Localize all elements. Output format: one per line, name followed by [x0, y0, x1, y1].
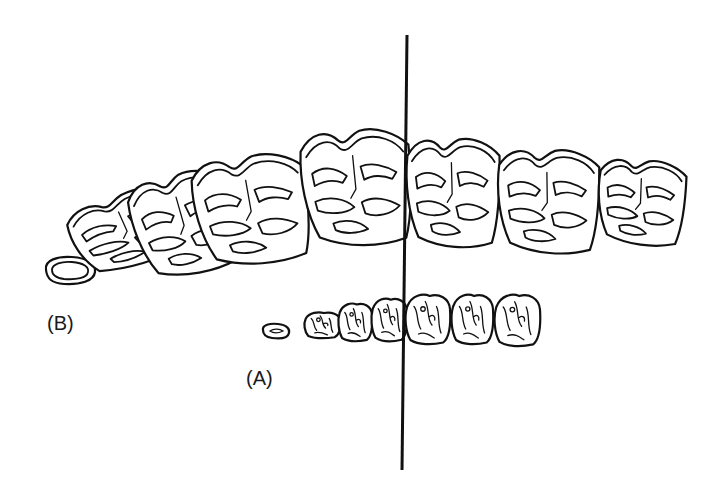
- tooth-a-4: [406, 295, 451, 344]
- tooth-a-3: [371, 299, 407, 341]
- tooth-b-6: [494, 147, 601, 256]
- tooth-a-1: [304, 312, 340, 338]
- tooth-b-5: [404, 137, 501, 249]
- tooth-b-7: [593, 155, 689, 248]
- tooth-rows-figure: [0, 0, 720, 498]
- row-a-label: (A): [246, 368, 273, 388]
- tooth-a-2: [338, 304, 372, 342]
- tooth-row-b: [46, 128, 689, 284]
- row-b-label: (B): [47, 313, 74, 333]
- tooth-a-anterior: [263, 324, 289, 339]
- vertical-reference-line: [402, 35, 407, 470]
- tooth-a-5: [452, 295, 494, 344]
- tooth-a-6: [495, 295, 541, 346]
- tooth-row-a: [263, 295, 540, 346]
- tooth-b-4: [299, 128, 412, 248]
